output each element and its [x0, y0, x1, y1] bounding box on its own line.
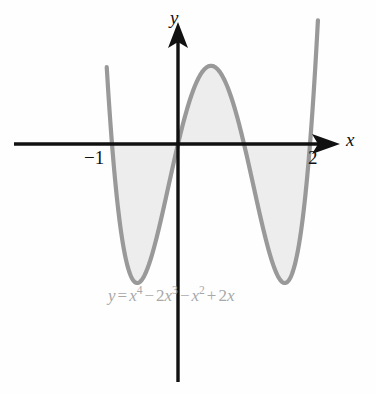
shaded-area-group — [112, 66, 310, 283]
shaded-region-neg1-to-0 — [112, 144, 178, 283]
plot-canvas — [0, 0, 376, 394]
equation-operator-2: − — [178, 286, 192, 305]
equation-term2-coefficient: 2 — [156, 286, 165, 305]
x-axis-label: x — [346, 130, 354, 149]
equation-term3-base: x — [191, 286, 199, 305]
equation-term4-base: x — [227, 286, 235, 305]
equation-operator-3: + — [205, 286, 219, 305]
equation-equals: = — [116, 286, 130, 305]
graph-figure: x y −1 2 y=x4−2x3−x2+2x — [0, 0, 376, 394]
equation-lhs: y — [108, 286, 116, 305]
equation-term1-base: x — [129, 286, 137, 305]
x-tick-label-2: 2 — [308, 148, 318, 167]
x-tick-label-neg-1: −1 — [84, 148, 104, 167]
y-axis-label: y — [170, 8, 178, 27]
equation-term2-base: x — [165, 286, 173, 305]
equation-term3-exponent: 2 — [199, 284, 205, 297]
equation-label: y=x4−2x3−x2+2x — [108, 286, 234, 306]
y-axis — [168, 22, 188, 382]
shaded-region-1-to-2 — [244, 144, 310, 283]
equation-operator-1: − — [142, 286, 156, 305]
equation-term4-coefficient: 2 — [218, 286, 227, 305]
